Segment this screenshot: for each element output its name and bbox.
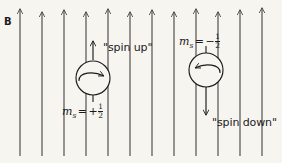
spin-up-sphere	[76, 61, 110, 95]
spin-down-ms-sign: −	[206, 35, 215, 48]
magnetic-field-lines	[20, 8, 262, 156]
spin-up-ms-label: ms=+12	[62, 103, 103, 119]
magnetic-field-label: B	[4, 17, 12, 27]
spin-up-ms-fraction: 12	[98, 103, 103, 119]
diagram-vector-layer	[0, 0, 282, 163]
spin-down-quote-label: "spin down"	[212, 117, 277, 128]
spin-up-ms-symbol: m	[62, 105, 72, 118]
spin-down-ms-symbol: m	[179, 35, 189, 48]
spin-down-ms-equals: =	[193, 35, 205, 48]
spin-up-quote-label: "spin up"	[103, 42, 152, 53]
spin-up-ms-numerator: 1	[98, 103, 103, 111]
spin-down-sphere	[189, 53, 223, 87]
spin-up-ms-denominator: 2	[98, 111, 103, 120]
spin-down-ms-numerator: 1	[215, 33, 220, 41]
spin-down-ms-fraction: 12	[215, 33, 220, 49]
spin-down-ms-label: ms=−12	[179, 33, 220, 49]
spin-magnetic-field-diagram: B "spin up" "spin down" ms=+12 ms=−12	[0, 0, 282, 163]
spin-up-ms-equals: =	[76, 105, 88, 118]
spin-down-ms-denominator: 2	[215, 41, 220, 50]
spin-up-ms-sign: +	[89, 105, 98, 118]
